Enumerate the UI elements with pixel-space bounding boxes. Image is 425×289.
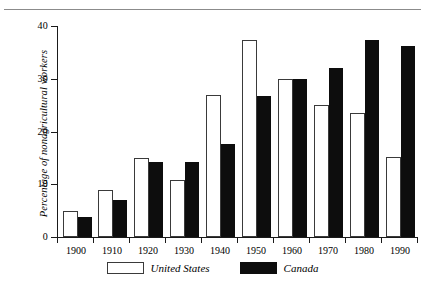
y-tick-20	[51, 132, 57, 133]
legend-entry-canada: Canada	[240, 262, 319, 274]
x-tick-1940	[201, 238, 202, 243]
bar-united-states-1960	[278, 79, 293, 237]
bar-canada-1950	[257, 96, 271, 237]
bar-united-states-1970	[314, 105, 329, 237]
x-tick-label-1920: 1920	[129, 245, 167, 256]
bar-united-states-1990	[386, 157, 401, 237]
bar-canada-1970	[329, 68, 343, 237]
y-axis-line	[57, 26, 58, 238]
bar-united-states-1900	[63, 211, 78, 237]
x-tick-1920	[129, 238, 130, 243]
x-tick-1900	[57, 238, 58, 243]
x-tick-label-1970: 1970	[309, 245, 347, 256]
legend-swatch-united-states	[107, 262, 144, 274]
bar-canada-1930	[185, 162, 199, 237]
legend-label-united-states: United States	[151, 262, 210, 274]
bar-canada-1940	[221, 144, 235, 237]
bar-canada-1900	[78, 217, 92, 237]
bar-united-states-1920	[134, 158, 149, 237]
y-axis-title: Percentage of nonagricultural workers	[38, 29, 49, 239]
plot-area: 0 10 20 30 40 Percentage of nonagricultu…	[0, 0, 425, 289]
x-tick-1980	[345, 238, 346, 243]
x-tick-label-1940: 1940	[201, 245, 239, 256]
figure-container: 0 10 20 30 40 Percentage of nonagricultu…	[0, 0, 425, 289]
x-tick-1960	[273, 238, 274, 243]
x-tick-label-1990: 1990	[381, 245, 419, 256]
bar-united-states-1940	[206, 95, 221, 237]
x-tick-label-1950: 1950	[237, 245, 275, 256]
bar-united-states-1910	[98, 190, 113, 238]
y-tick-30	[51, 79, 57, 80]
bar-united-states-1950	[242, 40, 257, 237]
bar-united-states-1980	[350, 113, 365, 238]
x-tick-label-1980: 1980	[345, 245, 383, 256]
y-tick-40	[51, 26, 57, 27]
bar-canada-1910	[113, 200, 127, 237]
x-tick-1950	[237, 238, 238, 243]
bar-canada-1920	[149, 162, 163, 237]
x-tick-1970	[309, 238, 310, 243]
x-tick-1910	[93, 238, 94, 243]
legend-label-canada: Canada	[284, 262, 319, 274]
x-tick-label-1910: 1910	[93, 245, 131, 256]
bar-united-states-1930	[170, 180, 185, 237]
legend-entry-united-states: United States	[107, 262, 210, 274]
chart-legend: United States Canada	[0, 262, 425, 274]
x-tick-1990	[381, 238, 382, 243]
x-tick-label-1960: 1960	[273, 245, 311, 256]
bar-canada-1980	[365, 40, 379, 237]
x-tick-label-1930: 1930	[165, 245, 203, 256]
bar-canada-1990	[401, 46, 415, 238]
y-tick-10	[51, 184, 57, 185]
x-tick-label-1900: 1900	[57, 245, 95, 256]
x-tick-1930	[165, 238, 166, 243]
x-tick-end	[417, 238, 418, 243]
bar-canada-1960	[293, 79, 307, 237]
legend-swatch-canada	[240, 262, 277, 274]
